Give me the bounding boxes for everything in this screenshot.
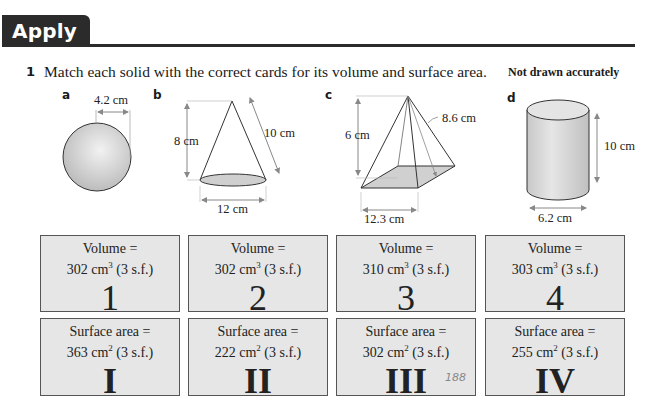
card-id: 1 xyxy=(41,278,179,318)
card-id: II xyxy=(189,361,327,401)
solids-figure xyxy=(0,0,645,235)
pyramid-height-label: 6 cm xyxy=(345,128,370,143)
surface-card-IV: Surface area = 255 cm2 (3 s.f.) IV xyxy=(485,318,625,396)
volume-card-4: Volume = 303 cm3 (3 s.f.) 4 xyxy=(485,235,625,312)
card-id: 4 xyxy=(486,278,624,318)
part-label-d: d xyxy=(507,91,516,105)
volume-card-1: Volume = 302 cm3 (3 s.f.) 1 xyxy=(40,235,180,312)
cylinder-figure xyxy=(527,100,597,208)
card-id: 2 xyxy=(189,278,327,318)
cylinder-diameter-label: 6.2 cm xyxy=(538,211,572,226)
cone-figure xyxy=(187,98,279,202)
surface-card-III: Surface area = 302 cm2 (3 s.f.) III 188 xyxy=(336,318,476,396)
surface-card-II: Surface area = 222 cm2 (3 s.f.) II xyxy=(188,318,328,396)
sphere-radius-label: 4.2 cm xyxy=(94,93,128,108)
pyramid-base-label: 12.3 cm xyxy=(364,212,404,227)
card-id: IV xyxy=(486,361,624,401)
pyramid-figure xyxy=(356,96,455,212)
handwritten-annotation: 188 xyxy=(445,371,466,384)
cone-diameter-label: 12 cm xyxy=(217,202,248,217)
card-id: 3 xyxy=(337,278,475,318)
surface-card-I: Surface area = 363 cm2 (3 s.f.) I xyxy=(40,318,180,396)
cone-height-label: 8 cm xyxy=(174,134,199,149)
volume-card-3: Volume = 310 cm3 (3 s.f.) 3 xyxy=(336,235,476,312)
sphere-figure xyxy=(63,110,131,191)
part-label-c: c xyxy=(325,88,332,102)
pyramid-slant-label: 8.6 cm xyxy=(442,111,476,126)
part-label-a: a xyxy=(62,88,70,102)
part-label-b: b xyxy=(153,88,162,102)
cone-slant-label: 10 cm xyxy=(264,126,295,141)
card-id: I xyxy=(41,361,179,401)
volume-card-2: Volume = 302 cm3 (3 s.f.) 2 xyxy=(188,235,328,312)
cylinder-height-label: 10 cm xyxy=(604,139,635,154)
